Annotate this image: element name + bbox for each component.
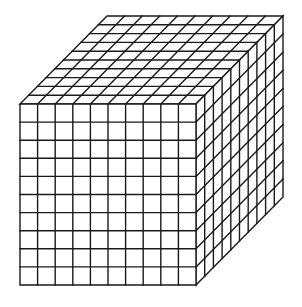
cube-diagram (0, 0, 302, 307)
cube-grid-drawing (0, 0, 302, 307)
